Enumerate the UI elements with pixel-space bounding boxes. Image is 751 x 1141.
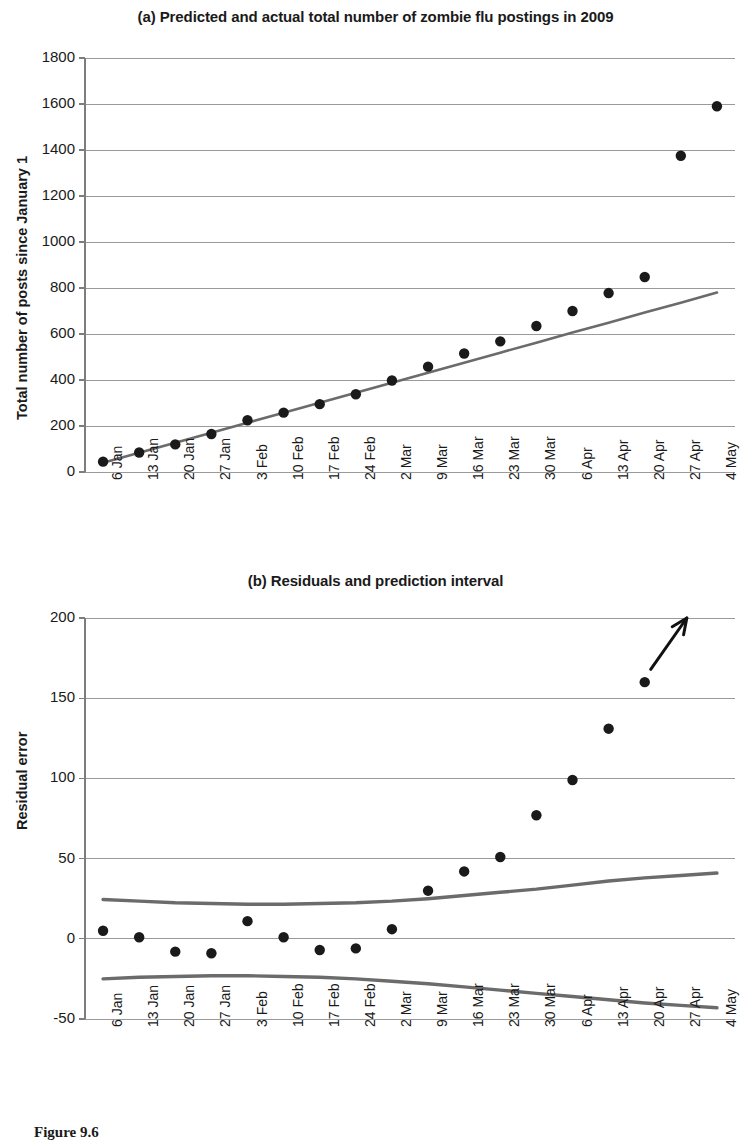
x-axis-tick-label: 6 Jan bbox=[109, 993, 125, 1027]
x-axis-tick-label: 20 Jan bbox=[181, 985, 197, 1027]
x-axis-tick-label: 24 Feb bbox=[362, 436, 378, 480]
y-axis-tick-label: 1000 bbox=[19, 232, 75, 249]
x-axis-tick-label: 20 Jan bbox=[181, 438, 197, 480]
y-axis-tick-label: 150 bbox=[19, 688, 75, 705]
x-axis-tick-label: 20 Apr bbox=[651, 987, 667, 1027]
y-axis-tick-label: 200 bbox=[19, 608, 75, 625]
y-axis-tick-label: 200 bbox=[19, 416, 75, 433]
x-axis-tick-label: 16 Mar bbox=[470, 436, 486, 480]
y-axis-tick-label: 800 bbox=[19, 278, 75, 295]
x-axis-tick-label: 13 Jan bbox=[145, 985, 161, 1027]
x-axis-tick-label: 3 Feb bbox=[254, 444, 270, 480]
x-axis-tick-label: 9 Mar bbox=[434, 444, 450, 480]
x-axis-tick-label: 2 Mar bbox=[398, 991, 414, 1027]
x-axis-tick-label: 24 Feb bbox=[362, 983, 378, 1027]
chart-b-plot-area bbox=[0, 560, 751, 1138]
x-axis-tick-label: 20 Apr bbox=[651, 440, 667, 480]
x-axis-tick-label: 16 Mar bbox=[470, 983, 486, 1027]
y-axis-tick-label: 0 bbox=[19, 462, 75, 479]
x-axis-tick-label: 10 Feb bbox=[290, 983, 306, 1027]
y-axis-tick-label: 0 bbox=[19, 929, 75, 946]
x-axis-tick-label: 27 Jan bbox=[217, 985, 233, 1027]
x-axis-tick-label: 17 Feb bbox=[326, 436, 342, 480]
y-axis-tick-label: -50 bbox=[19, 1009, 75, 1026]
chart-panel-b: (b) Residuals and prediction interval bbox=[0, 560, 751, 1138]
x-axis-tick-label: 27 Apr bbox=[687, 440, 703, 480]
x-axis-tick-label: 13 Apr bbox=[615, 440, 631, 480]
y-axis-tick-label: 1800 bbox=[19, 48, 75, 65]
x-axis-tick-label: 27 Jan bbox=[217, 438, 233, 480]
x-axis-tick-label: 30 Mar bbox=[542, 983, 558, 1027]
x-axis-tick-label: 2 Mar bbox=[398, 444, 414, 480]
figure-caption: Figure 9.6 bbox=[34, 1124, 99, 1141]
y-axis-tick-label: 100 bbox=[19, 768, 75, 785]
x-axis-tick-label: 6 Apr bbox=[579, 447, 595, 480]
x-axis-tick-label: 27 Apr bbox=[687, 987, 703, 1027]
y-axis-tick-label: 50 bbox=[19, 849, 75, 866]
x-axis-tick-label: 23 Mar bbox=[506, 983, 522, 1027]
y-axis-tick-label: 1200 bbox=[19, 186, 75, 203]
y-axis-tick-label: 1400 bbox=[19, 140, 75, 157]
x-axis-tick-label: 6 Jan bbox=[109, 446, 125, 480]
y-axis-tick-label: 400 bbox=[19, 370, 75, 387]
x-axis-tick-label: 13 Apr bbox=[615, 987, 631, 1027]
y-axis-tick-label: 1600 bbox=[19, 94, 75, 111]
x-axis-tick-label: 10 Feb bbox=[290, 436, 306, 480]
x-axis-tick-label: 3 Feb bbox=[254, 991, 270, 1027]
x-axis-tick-label: 13 Jan bbox=[145, 438, 161, 480]
x-axis-tick-label: 23 Mar bbox=[506, 436, 522, 480]
x-axis-tick-label: 9 Mar bbox=[434, 991, 450, 1027]
x-axis-tick-label: 4 May bbox=[723, 442, 739, 480]
trend-arrow-annotation bbox=[651, 618, 687, 669]
y-axis-tick-label: 600 bbox=[19, 324, 75, 341]
x-axis-tick-label: 4 May bbox=[723, 989, 739, 1027]
x-axis-tick-label: 30 Mar bbox=[542, 436, 558, 480]
x-axis-tick-label: 17 Feb bbox=[326, 983, 342, 1027]
x-axis-tick-label: 6 Apr bbox=[579, 994, 595, 1027]
